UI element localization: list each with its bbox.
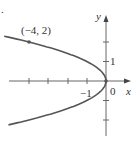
origin-label: 0 bbox=[110, 85, 116, 97]
x-axis-arrow-icon bbox=[124, 79, 131, 84]
y-axis-label: y bbox=[95, 10, 101, 22]
point-label: (−4, 2) bbox=[21, 24, 51, 37]
x-axis-label: x bbox=[125, 85, 131, 97]
vertex-marker bbox=[104, 79, 108, 83]
parabola-diagram: . (−4, 2) y x 0 −1 1 bbox=[0, 0, 135, 141]
point-marker bbox=[27, 40, 31, 44]
y-axis-arrow-icon bbox=[104, 15, 109, 22]
y-tick-label: 1 bbox=[110, 55, 116, 67]
figure-marker: . bbox=[1, 3, 4, 15]
x-tick-label: −1 bbox=[80, 87, 92, 99]
